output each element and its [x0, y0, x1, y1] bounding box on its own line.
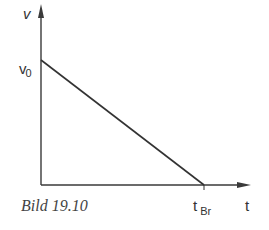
y-axis-label: v	[23, 5, 32, 22]
x-axis-label: t	[245, 197, 250, 214]
velocity-time-diagram: v v0 tBr t	[0, 0, 269, 230]
figure-caption: Bild 19.10	[21, 197, 88, 215]
velocity-line	[41, 60, 204, 185]
x-axis-arrow-icon	[237, 182, 251, 188]
t-br-label: tBr	[193, 197, 212, 217]
y-axis-arrow-icon	[38, 4, 44, 18]
v0-label: v0	[19, 60, 32, 79]
